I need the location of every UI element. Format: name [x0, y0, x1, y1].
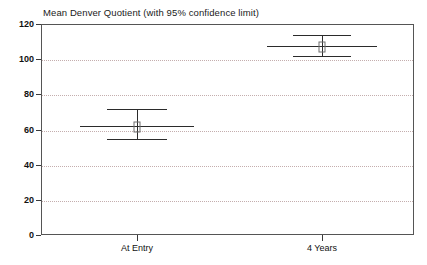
y-axis-tick: [36, 94, 41, 95]
y-axis-tick-label: 80: [4, 89, 34, 99]
y-axis-tick: [36, 59, 41, 60]
chart-title: Mean Denver Quotient (with 95% confidenc…: [43, 7, 259, 18]
gridline: [42, 201, 413, 202]
y-axis-tick-label: 120: [4, 19, 34, 29]
y-axis-tick-label: 0: [4, 230, 34, 240]
x-axis-tick: [322, 235, 323, 241]
y-axis-labels: 120100806040200: [0, 0, 34, 265]
x-axis-tick-label: 4 Years: [307, 243, 337, 253]
y-axis-tick-label: 20: [4, 195, 34, 205]
y-axis-tick: [36, 130, 41, 131]
gridline: [42, 166, 413, 167]
y-axis-tick-label: 40: [4, 160, 34, 170]
gridline: [42, 131, 413, 132]
y-axis-tick: [36, 165, 41, 166]
y-axis-tick: [36, 24, 41, 25]
y-axis-tick-label: 60: [4, 125, 34, 135]
gridline: [42, 60, 413, 61]
y-axis-tick: [36, 200, 41, 201]
y-axis-tick: [36, 235, 41, 236]
x-axis-tick-label: At Entry: [121, 243, 153, 253]
gridline: [42, 95, 413, 96]
chart-figure: Mean Denver Quotient (with 95% confidenc…: [0, 0, 427, 265]
y-axis-tick-label: 100: [4, 54, 34, 64]
plot-area: [41, 24, 414, 235]
x-axis-tick: [137, 235, 138, 241]
